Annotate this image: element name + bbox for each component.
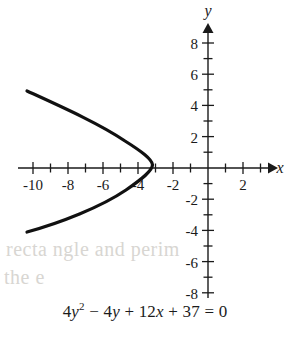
caption-coef-x: 12	[139, 302, 156, 321]
caption-exponent: 2	[79, 300, 85, 312]
caption-rhs: 0	[219, 302, 228, 321]
x-axis-label: x	[275, 159, 283, 176]
y-tick-label-2: 2	[191, 130, 199, 146]
caption-minus-sign: −	[89, 302, 99, 321]
caption-plus-sign-1: +	[124, 302, 134, 321]
x-tick-label--2: -2	[167, 177, 180, 193]
y-tick-label-6: 6	[191, 67, 199, 83]
y-axis-label: y	[202, 2, 212, 20]
graph-figure: recta ngle and perim the e -10 -8 -6	[0, 0, 290, 338]
caption-coef-y: 4	[104, 302, 113, 321]
y-tick-label--8: -8	[186, 286, 199, 300]
caption-plus-sign-2: +	[168, 302, 178, 321]
coordinate-plane: -10 -8 -6 -4 -2 2 x	[0, 0, 290, 300]
y-tick-label--2: -2	[186, 192, 199, 208]
y-axis-arrow	[203, 23, 214, 33]
caption-equals-sign: =	[204, 302, 214, 321]
caption-var-y-squared: y	[71, 302, 79, 321]
y-tick-label--6: -6	[186, 255, 199, 271]
x-tick-label--6: -6	[97, 177, 110, 193]
y-tick-label--4: -4	[186, 223, 199, 239]
caption-constant: 37	[183, 302, 200, 321]
x-tick-label--10: -10	[23, 177, 43, 193]
y-tick-label-8: 8	[191, 36, 199, 52]
caption-var-x: x	[156, 302, 164, 321]
caption-var-y: y	[112, 302, 120, 321]
x-tick-label--8: -8	[62, 177, 75, 193]
figure-caption-equation: 4y2 − 4y + 12x + 37 = 0	[0, 300, 290, 322]
parabola-curve	[27, 91, 153, 232]
y-axis: 8 6 4 2 -2 -4 -6 -8 y	[186, 2, 215, 300]
x-tick-label-2: 2	[239, 177, 247, 193]
y-tick-label-4: 4	[191, 98, 199, 114]
